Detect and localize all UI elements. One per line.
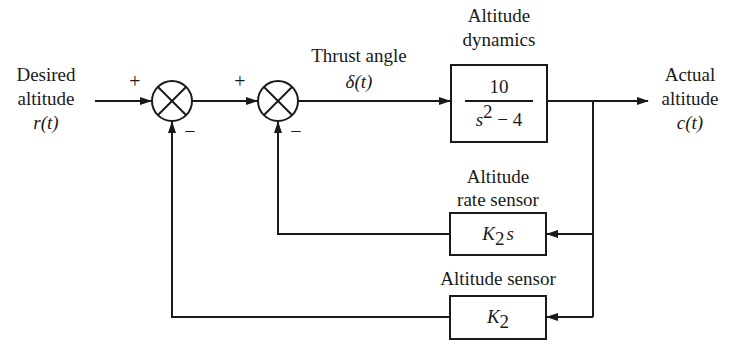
output-signal: c(t)	[677, 112, 703, 134]
position-feedback-path	[172, 122, 450, 317]
output-label-line1: Actual	[665, 64, 716, 85]
plant-block: Altitude dynamics 10 s2 − 4	[451, 5, 547, 142]
rate-feedback-path	[278, 122, 450, 234]
sum1-plus-sign: +	[129, 70, 140, 92]
plant-title-line2: dynamics	[463, 29, 536, 50]
rate-sensor-title-line1: Altitude	[467, 166, 529, 187]
rate-sensor-block: Altitude rate sensor K2s	[450, 166, 546, 255]
altitude-sensor-title: Altitude sensor	[440, 268, 556, 289]
plant-title-line1: Altitude	[468, 5, 530, 26]
thrust-angle-label: Thrust angle δ(t)	[311, 45, 407, 93]
thrust-angle-signal: δ(t)	[346, 71, 373, 93]
sum2-plus-sign: +	[234, 70, 245, 92]
output-label-line2: altitude	[662, 88, 719, 109]
input-signal: r(t)	[33, 112, 58, 134]
sum1-minus-sign: −	[184, 120, 195, 142]
block-diagram: Desired altitude r(t) + − + − Thrust ang…	[0, 0, 740, 356]
thrust-angle-text: Thrust angle	[311, 45, 407, 66]
summing-junction-2: + −	[234, 70, 301, 142]
altitude-sensor-block: Altitude sensor K2	[440, 268, 556, 339]
output-label: Actual altitude c(t)	[662, 64, 719, 134]
input-label-line2: altitude	[18, 88, 75, 109]
plant-numerator: 10	[490, 76, 509, 97]
sum2-minus-sign: −	[290, 120, 301, 142]
input-label-line1: Desired	[16, 64, 76, 85]
input-label: Desired altitude r(t)	[16, 64, 76, 134]
summing-junction-1: + −	[129, 70, 195, 142]
rate-sensor-title-line2: rate sensor	[457, 189, 539, 210]
